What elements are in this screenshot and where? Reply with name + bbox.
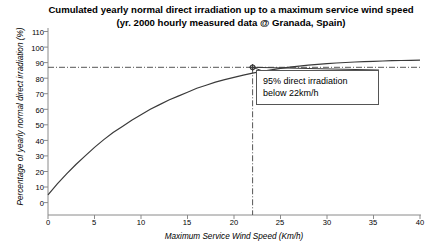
threshold-annotation-line-1: 95% direct irradiation bbox=[263, 75, 373, 87]
x-axis-ticks bbox=[48, 215, 420, 219]
y-axis-ticks bbox=[44, 32, 48, 203]
chart-figure: Cumulated yearly normal direct irradiati… bbox=[0, 0, 437, 251]
threshold-annotation-line-2: below 22km/h bbox=[263, 87, 373, 99]
threshold-point-marker bbox=[249, 64, 256, 71]
threshold-annotation: 95% direct irradiation below 22km/h bbox=[256, 70, 379, 105]
chart-plot-area bbox=[0, 0, 437, 251]
